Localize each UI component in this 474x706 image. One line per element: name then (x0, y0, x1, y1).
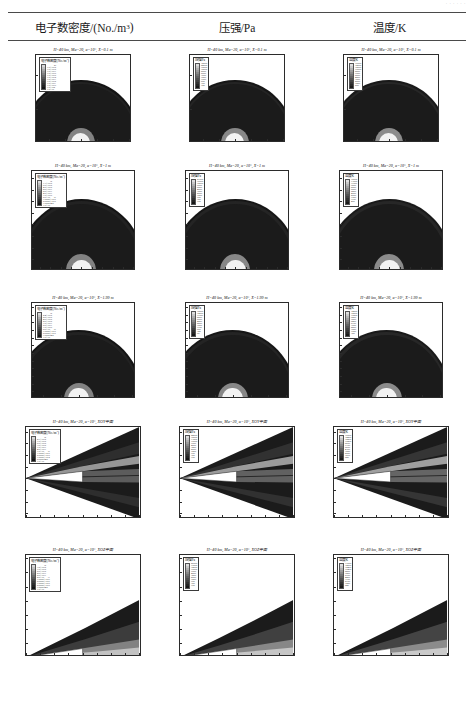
legend-title: 电子数密度/(No./m3) (31, 431, 59, 436)
x-tickmark (215, 267, 216, 269)
x-tickmark (422, 395, 423, 397)
y-tickmark (334, 432, 336, 433)
colour-legend: 压强/Pa32000240001800012000800050003000180… (193, 57, 210, 91)
y-tickmark (26, 558, 28, 559)
x-tickmark (54, 515, 55, 517)
legend-label-column: 3.5×10191.0×10195.0×10182.0×10188.0×1017… (37, 564, 50, 591)
y-tickmark (334, 572, 336, 573)
x-tickmark (379, 267, 380, 269)
y-tickmark (32, 224, 34, 225)
x-tickmark (133, 267, 134, 269)
x-tickmark (132, 395, 133, 397)
y-tickmark (334, 558, 336, 559)
legend-label-column: 2100016000120009000650045003000200012007… (197, 179, 203, 206)
subplot-title: H=40 km, Ma=20, α=10°, X=1.99 m (6, 294, 160, 301)
y-tickmark (334, 615, 336, 616)
y-tickmark (190, 109, 192, 110)
y-tickmark (26, 601, 28, 602)
x-tickmark (362, 515, 363, 517)
legend-swatch (340, 458, 343, 460)
subplot-title: H=40 km, Ma=20, α=10°, XOY平面 (160, 418, 314, 425)
legend-label: 100 (191, 457, 197, 459)
x-tickmark (49, 139, 50, 141)
x-tickmark (194, 653, 195, 655)
legend-swatch-column (339, 435, 344, 462)
x-tickmark (389, 139, 390, 141)
x-tickmark (125, 515, 126, 517)
x-tickmark (246, 267, 247, 269)
x-tickmark (194, 267, 195, 269)
x-tickmark (421, 139, 422, 141)
y-tickmark (32, 178, 34, 179)
colour-legend: 温度/K150001300011000950080006500520040002… (343, 173, 360, 207)
y-tickmark (186, 361, 188, 362)
legend-label: 100 (197, 201, 203, 203)
legend-swatch (38, 335, 41, 337)
legend-swatch-column (185, 563, 190, 590)
y-tickmark (26, 478, 28, 479)
y-tickmark (334, 643, 336, 644)
x-tickmark (279, 515, 280, 517)
plot-area: -0.2-0.100.10.20.300.20.4压强/Pa3200024000… (189, 54, 285, 142)
x-tickmark (222, 515, 223, 517)
plot-area: -0.8-0.6-0.4-0.200.20.40.60.8100.20.40.6… (339, 170, 443, 270)
x-tickmark (251, 395, 252, 397)
y-tickmark (32, 201, 34, 202)
legend-title: 电子数密度/(No./m3) (41, 59, 69, 64)
subplot-plane-xoz-ne: H=40 km, Ma=20, α=10°, XOZ平面00.511.522.5… (6, 542, 160, 682)
colour-legend: 压强/Pa26000190001400010000700048003200200… (183, 557, 200, 591)
subplot-title: H=40 km, Ma=20, α=10°, XOY平面 (314, 418, 468, 425)
legend-label: 400 (351, 201, 357, 203)
x-tickmark (405, 653, 406, 655)
y-tickmark (334, 443, 336, 444)
x-tickmark (431, 267, 432, 269)
x-tickmark (433, 653, 434, 655)
x-tickmark (334, 515, 335, 517)
x-tickmark (43, 395, 44, 397)
y-tickmark (186, 345, 188, 346)
subplot-title: H=40 km, Ma=20, α=10°, X=0.1 m (6, 46, 160, 53)
y-tickmark (32, 259, 34, 260)
outflow-strip (293, 555, 294, 655)
subplot-plane-xoy-t: H=40 km, Ma=20, α=10°, XOY平面00.511.522.5… (314, 414, 468, 542)
y-tickmark (32, 315, 34, 316)
x-tickmark (376, 653, 377, 655)
x-tickmark (268, 395, 269, 397)
legend-label: 520 (345, 457, 351, 459)
legend-swatch-column (41, 64, 46, 91)
colour-legend: 电子数密度/(No./m3)2.4×10198.0×10184.0×10182.… (35, 305, 67, 340)
y-tickmark (340, 315, 342, 316)
y-tickmark (26, 643, 28, 644)
x-tickmark (265, 515, 266, 517)
x-tickmark (208, 653, 209, 655)
subplot-slice-x-0p1-ne: H=40 km, Ma=20, α=10°, X=0.1 m-0.2-0.100… (6, 42, 160, 158)
x-tickmark (113, 139, 114, 141)
x-tickmark (40, 267, 41, 269)
y-tickmark (26, 455, 28, 456)
y-tickmark (334, 629, 336, 630)
x-tickmark (334, 653, 335, 655)
subplot-title: H=40 km, Ma=20, α=10°, X=1 m (6, 162, 160, 169)
x-tickmark (235, 267, 236, 269)
y-tickmark (340, 384, 342, 385)
y-tickmark (190, 75, 192, 76)
x-tickmark (114, 395, 115, 397)
outflow-strip (293, 427, 294, 517)
y-tickmark (186, 201, 188, 202)
legend-swatch (32, 459, 35, 461)
plot-area: 00.511.522.533.54-1.5-1-0.500.511.52电子数密… (25, 426, 141, 518)
column-header-pressure: 压强/Pa (161, 16, 314, 38)
legend-swatch-column (349, 63, 354, 90)
x-tickmark (447, 653, 448, 655)
legend-swatch-column (31, 436, 36, 463)
legend-title: 电子数密度/(No./m3) (37, 175, 65, 180)
y-tickmark (180, 467, 182, 468)
y-tickmark (340, 259, 342, 260)
x-tickmark (79, 395, 80, 397)
plot-area: 00.511.522.533.5400.511.522.533.5电子数密度/(… (25, 554, 141, 656)
y-tickmark (180, 502, 182, 503)
figure-page: · · · · · · 电子数密度/(No./m3) 压强/Pa 温度/K H=… (0, 0, 474, 706)
x-tickmark (61, 395, 62, 397)
y-tickmark (26, 572, 28, 573)
subplot-title: H=40 km, Ma=20, α=10°, XOZ平面 (6, 546, 160, 553)
